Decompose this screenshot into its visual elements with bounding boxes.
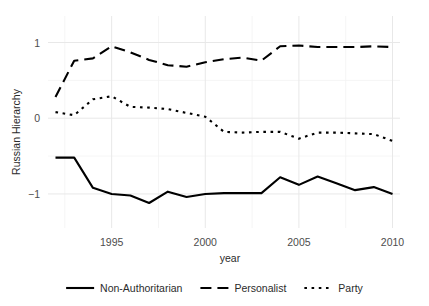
- x-tick-label: 1995: [100, 236, 124, 248]
- x-tick-label: 2005: [287, 236, 311, 248]
- x-tick-label: 2000: [194, 236, 218, 248]
- y-tick-label: 1: [34, 37, 40, 49]
- y-tick-label: −1: [28, 188, 40, 200]
- y-tick-label: 0: [34, 112, 40, 124]
- y-axis-title: Russian Hierarchy: [10, 88, 22, 175]
- legend-label: Personalist: [234, 282, 286, 294]
- chart-container: 10−1 1995200020052010 Russian Hierarchy …: [0, 0, 429, 306]
- legend-label: Party: [338, 282, 363, 294]
- line-chart-svg: 10−1 1995200020052010 Russian Hierarchy …: [0, 0, 429, 306]
- legend-label: Non-Authoritarian: [100, 282, 182, 294]
- x-tick-label: 2010: [381, 236, 405, 248]
- x-axis-title: year: [220, 252, 241, 264]
